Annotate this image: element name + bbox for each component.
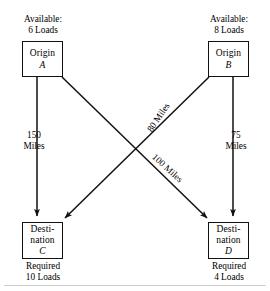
node-destination-d[interactable]: Desti- nation D [208,222,249,259]
destination-d-demand-caption: Required 4 Loads [189,261,269,284]
node-origin-a[interactable]: Origin A [22,41,63,77]
node-origin-b[interactable]: Origin B [208,41,249,77]
origin-a-supply-caption: Available: 6 Loads [3,14,83,37]
transportation-network-diagram: Available: 6 Loads Available: 8 Loads Or… [0,0,270,291]
footer-divider [4,285,266,286]
node-destination-c-id: C [39,246,45,257]
edge-a-to-d [62,77,207,218]
edge-a-to-c-label: 150 Miles [12,130,56,153]
destination-c-demand-caption: Required 10 Loads [3,261,83,284]
edge-b-to-d-label: 75 Miles [214,130,258,153]
origin-b-supply-caption: Available: 8 Loads [189,14,269,37]
node-origin-b-kind: Origin [216,48,241,59]
node-origin-a-id: A [40,60,46,71]
node-destination-c-kind: Desti- nation [30,224,54,245]
edge-a-to-d-label: 100 Miles [143,146,191,191]
edge-b-to-c-label: 80 Miles [139,92,179,143]
node-destination-d-kind: Desti- nation [216,224,240,245]
node-origin-a-kind: Origin [30,48,55,59]
node-destination-c[interactable]: Desti- nation C [22,222,63,259]
node-destination-d-id: D [225,246,232,257]
node-origin-b-id: B [226,60,232,71]
edge-b-to-c [65,77,209,218]
